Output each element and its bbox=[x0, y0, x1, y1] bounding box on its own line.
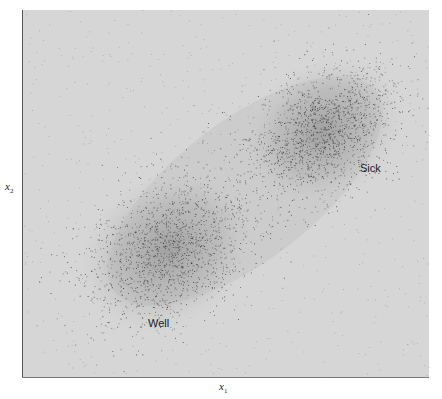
sick-cluster-label: Sick bbox=[360, 162, 381, 174]
y-axis-label: x2 bbox=[5, 180, 13, 195]
scatter-plot bbox=[0, 0, 442, 399]
well-cluster-label: Well bbox=[148, 317, 169, 329]
x-axis-label: x1 bbox=[219, 380, 227, 395]
